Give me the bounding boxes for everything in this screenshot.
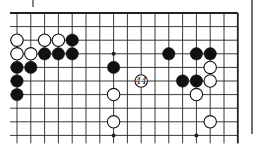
black-stone [66,34,78,46]
hoshi-point [112,52,116,56]
white-stone [52,34,64,46]
white-stone [204,116,216,128]
hoshi-point [194,133,198,137]
white-stone [11,48,23,60]
white-stone [38,34,50,46]
white-stone [204,61,216,73]
black-stone [107,61,119,73]
white-stone [107,116,119,128]
black-stone [52,48,64,60]
numbered-stone: 44 [135,75,148,87]
black-stone [176,75,188,87]
white-stone [107,88,119,100]
black-stone [11,61,23,73]
black-stone [163,48,175,60]
black-stone [190,75,202,87]
black-stone [11,75,23,87]
black-stone [204,48,216,60]
white-stone [190,88,202,100]
hoshi-point [112,133,116,137]
white-stone [25,48,37,60]
black-stone [190,48,202,60]
go-board-diagram: 44 [0,0,257,150]
black-stone [11,88,23,100]
paper-background [0,0,257,150]
move-number: 44 [135,76,147,86]
black-stone [25,61,37,73]
white-stone [204,75,216,87]
black-stone [66,48,78,60]
black-stone [38,48,50,60]
white-stone [11,34,23,46]
